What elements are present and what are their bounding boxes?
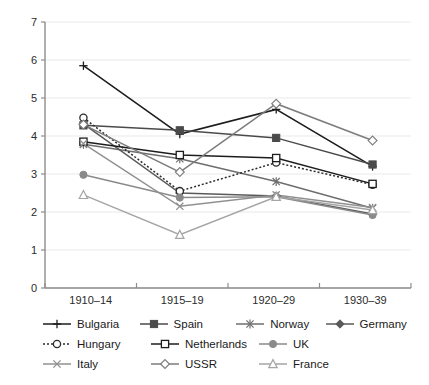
legend-item-norway[interactable]: Norway [235,314,324,334]
marker-open-circle [53,340,60,347]
marker-filled-square [273,134,280,141]
x-axis-tick-labels: 1910–141915–191920–291930–39 [69,294,386,306]
legend-label: France [293,357,329,371]
legend-item-spain[interactable]: Spain [139,314,236,334]
marker-open-square [176,151,183,158]
legend-label: Spain [174,317,203,331]
legend-swatch-plus-icon [42,317,72,331]
legend-item-italy[interactable]: Italy [42,354,150,374]
series-line-netherlands [83,142,372,184]
series-line-spain [83,125,372,164]
marker-filled-square [369,161,376,168]
legend-swatch-filled-square-icon [139,317,169,331]
legend-swatch-triangle-icon [258,357,288,371]
legend-swatch-cross-icon [42,357,72,371]
marker-plus [53,320,61,328]
legend-item-ussr[interactable]: USSR [150,354,258,374]
y-tick-label: 0 [31,282,37,294]
x-tick-label: 1915–19 [161,294,204,306]
y-tick-label: 7 [31,16,37,28]
legend-swatch-open-square-icon [150,337,180,351]
legend-row: HungaryNetherlandsUK [42,334,414,354]
axes [41,22,411,288]
x-tick-label: 1930–39 [344,294,387,306]
legend-label: UK [293,337,309,351]
marker-filled-circle [176,194,183,201]
legend-item-germany[interactable]: Germany [325,314,414,334]
legend-swatch-filled-circle-icon [258,337,288,351]
chart-legend: BulgariaSpainNorwayGermanyHungaryNetherl… [42,314,414,376]
legend-row: BulgariaSpainNorwayGermany [42,314,414,334]
legend-item-hungary[interactable]: Hungary [42,334,150,354]
x-tick-label: 1910–14 [69,294,112,306]
legend-label: Norway [270,317,309,331]
legend-swatch-asterisk-icon [235,317,265,331]
y-axis-tick-labels: 01234567 [31,16,37,294]
marker-open-square [161,340,168,347]
marker-filled-square [176,127,183,134]
y-tick-label: 4 [31,130,37,142]
legend-label: Bulgaria [77,317,119,331]
series-line-ussr [83,104,372,172]
legend-label: Netherlands [185,337,247,351]
series-markers-bulgaria [79,62,377,171]
legend-item-uk[interactable]: UK [258,334,358,354]
x-tick-label: 1920–29 [252,294,295,306]
marker-filled-diamond [335,320,343,328]
legend-item-netherlands[interactable]: Netherlands [150,334,258,354]
marker-open-square [273,154,280,161]
legend-row: ItalyUSSRFrance [42,354,414,374]
series-markers-hungary [80,114,376,195]
series-lines [83,66,372,235]
legend-swatch-filled-diamond-icon [325,317,355,331]
legend-swatch-open-circle-icon [42,337,72,351]
marker-filled-square [150,320,157,327]
y-tick-label: 1 [31,244,37,256]
legend-label: Italy [77,357,98,371]
legend-label: Germany [360,317,407,331]
y-tick-label: 5 [31,92,37,104]
marker-filled-circle [80,171,87,178]
y-tick-label: 3 [31,168,37,180]
series-line-norway [83,144,372,208]
legend-item-bulgaria[interactable]: Bulgaria [42,314,139,334]
y-tick-label: 2 [31,206,37,218]
y-tick-label: 6 [31,54,37,66]
marker-open-diamond [161,360,170,369]
marker-open-square [369,180,376,187]
marker-open-diamond [368,136,377,145]
legend-swatch-open-diamond-icon [150,357,180,371]
marker-filled-circle [269,340,276,347]
chart-page: 01234567 1910–141915–191920–291930–39 Bu… [0,0,429,385]
legend-label: USSR [185,357,217,371]
legend-item-france[interactable]: France [258,354,358,374]
marker-triangle [79,191,87,199]
legend-label: Hungary [77,337,120,351]
